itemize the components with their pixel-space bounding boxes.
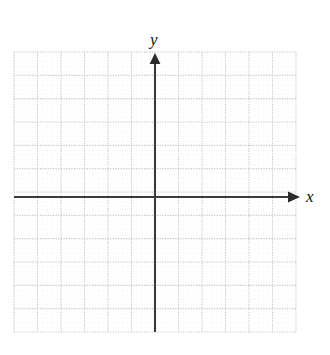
coordinate-plane: y x — [0, 0, 330, 355]
grid-and-axes — [0, 0, 330, 355]
y-axis-label: y — [150, 31, 158, 48]
x-axis-label: x — [306, 188, 314, 205]
